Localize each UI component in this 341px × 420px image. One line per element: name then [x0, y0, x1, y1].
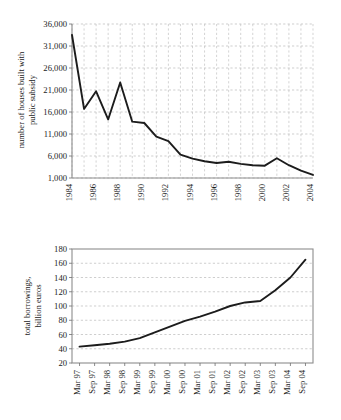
borrowings-ytick-label: 80: [58, 315, 67, 325]
chart-total-borrowings: 20406080100120140160180 Mar 97Sep 97Mar …: [0, 210, 341, 420]
borrowings-ytick-label: 120: [54, 287, 67, 297]
houses-xtick-label: 1994: [185, 183, 195, 201]
borrowings-ytick-label: 20: [58, 358, 67, 368]
borrowings-xtick-label: Sep 04: [297, 369, 307, 393]
houses-ytick-label: 31,000: [43, 41, 67, 51]
borrowings-xtick-label: Mar 98: [102, 370, 112, 395]
borrowings-chart-svg: 20406080100120140160180 Mar 97Sep 97Mar …: [0, 210, 341, 420]
borrowings-xtick-label: Sep 03: [267, 370, 277, 394]
houses-xtick-label: 1984: [64, 183, 74, 201]
houses-xtick-label: 1988: [112, 184, 122, 201]
borrowings-xtick-label: Mar 02: [222, 370, 232, 395]
houses-gridlines: [72, 24, 313, 178]
borrowings-y-axis-title-line1: total borrowings,: [22, 277, 32, 336]
houses-xtick-labels: 1984198619881990199219941996199820002002…: [64, 183, 315, 201]
borrowings-xtick-label: Sep 02: [237, 370, 247, 394]
houses-ytick-label: 11,000: [44, 129, 67, 139]
borrowings-ytick-label: 100: [54, 301, 67, 311]
borrowings-xtick-label: Sep 97: [87, 369, 97, 393]
houses-xtick-label: 2000: [257, 184, 267, 201]
borrowings-ytick-label: 140: [54, 273, 67, 283]
borrowings-xtick-label: Mar 01: [192, 370, 202, 395]
houses-y-axis-title-line1: number of houses built with: [16, 51, 26, 148]
houses-ytick-label: 21,000: [43, 85, 67, 95]
borrowings-xtick-label: Mar 97: [72, 369, 82, 395]
borrowings-xtick-label: Mar 00: [162, 370, 172, 395]
houses-xtick-label: 2002: [281, 184, 291, 201]
borrowings-xtick-label: Sep 00: [177, 370, 187, 394]
borrowings-y-axis-title-line2: billion euros: [33, 284, 43, 328]
borrowings-ytick-label: 160: [54, 258, 67, 268]
borrowings-ytick-label: 180: [54, 244, 67, 254]
borrowings-xtick-label: Mar 99: [132, 370, 142, 395]
borrowings-ytick-label: 60: [58, 330, 67, 340]
borrowings-xtick-label: Mar 03: [252, 370, 262, 395]
houses-ytick-label: 16,000: [43, 107, 67, 117]
houses-ytick-label: 1,000: [48, 173, 67, 183]
borrowings-xtick-label: Sep 01: [207, 370, 217, 394]
chart-houses-built: 1,0006,00011,00016,00021,00026,00031,000…: [0, 0, 341, 210]
borrowings-xtick-label: Sep 99: [147, 370, 157, 394]
houses-y-axis-title-line2: public subsidy: [27, 74, 37, 125]
borrowings-xtick-label: Sep 98: [117, 370, 127, 394]
borrowings-ytick-label: 40: [58, 344, 67, 354]
houses-ytick-label: 26,000: [43, 63, 67, 73]
houses-xtick-label: 2004: [305, 183, 315, 201]
borrowings-gridlines: [72, 263, 313, 349]
borrowings-ytick-labels: 20406080100120140160180: [54, 244, 72, 368]
houses-chart-svg: 1,0006,00011,00016,00021,00026,00031,000…: [0, 0, 341, 210]
houses-xtick-label: 1986: [88, 183, 98, 201]
houses-xtick-label: 1990: [136, 184, 146, 201]
borrowings-xtick-labels: Mar 97Sep 97Mar 98Sep 98Mar 99Sep 99Mar …: [72, 369, 308, 395]
houses-xtick-label: 1996: [209, 183, 219, 201]
houses-xtick-label: 1998: [233, 184, 243, 201]
borrowings-data-line: [80, 260, 306, 347]
houses-ytick-label: 6,000: [48, 151, 67, 161]
houses-ytick-label: 36,000: [43, 19, 67, 29]
houses-ytick-labels: 1,0006,00011,00016,00021,00026,00031,000…: [43, 19, 72, 183]
houses-xtick-label: 1992: [160, 184, 170, 201]
borrowings-xtick-label: Mar 04: [282, 369, 292, 395]
